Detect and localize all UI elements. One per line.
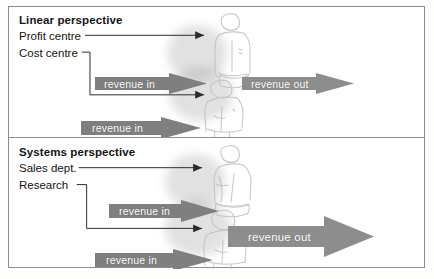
- arrow-label: revenue in: [81, 117, 143, 138]
- panel-systems-perspective: Systems perspective Sales dept. Research: [9, 138, 424, 269]
- arrow-revenue-in-lower: revenue in: [95, 249, 213, 269]
- arrow-label: revenue in: [95, 73, 155, 94]
- diagram-frame: Linear perspective Profit centre Cost ce…: [8, 6, 425, 268]
- arrow-revenue-out: revenue out: [228, 216, 374, 257]
- arrow-revenue-in-lower: revenue in: [81, 117, 201, 138]
- arrow-revenue-in-upper: revenue in: [95, 73, 207, 94]
- leader-arrowhead: [195, 31, 204, 39]
- leader-arrowhead: [193, 224, 202, 232]
- arrow-label: revenue out: [228, 216, 311, 257]
- leader-lines-linear: [9, 7, 424, 137]
- arrow-label: revenue in: [109, 200, 170, 222]
- arrow-revenue-in-upper: revenue in: [109, 200, 219, 222]
- leader-arrowhead: [193, 164, 202, 172]
- panel-linear-perspective: Linear perspective Profit centre Cost ce…: [9, 7, 424, 138]
- arrow-label: revenue in: [95, 249, 157, 269]
- diagram-figure: Linear perspective Profit centre Cost ce…: [0, 0, 434, 279]
- arrow-label: revenue out: [242, 73, 309, 94]
- arrow-revenue-out: revenue out: [242, 73, 354, 94]
